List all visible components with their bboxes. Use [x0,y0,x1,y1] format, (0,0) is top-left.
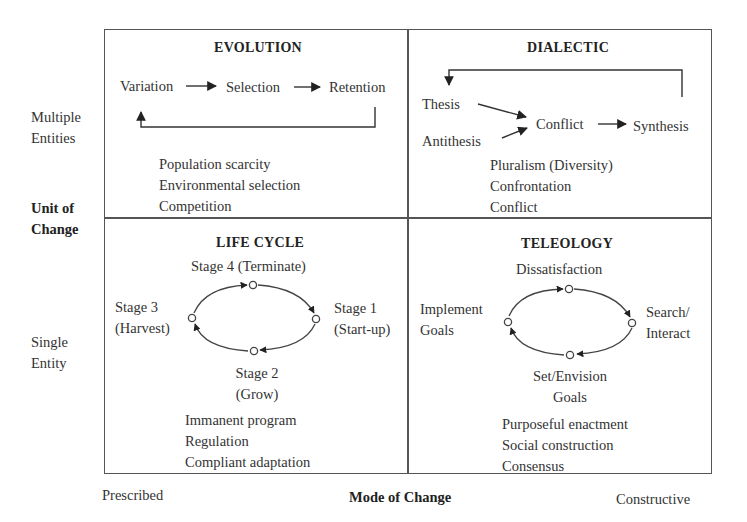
search-interact-node [628,319,635,326]
dialectic-arrows [449,70,682,138]
arrow-retention-feedback [141,107,375,127]
arrow-thesis-to-conflict [478,104,526,117]
diagram-arrows [0,0,747,522]
stage-2-node [250,347,257,354]
evolution-arrows [141,86,375,127]
stage-4-node [249,281,256,288]
life-cycle-cycle [188,281,319,354]
arrow-synthesis-feedback [449,70,682,97]
dissatisfaction-node [565,285,572,292]
teleology-cycle [504,285,635,358]
set-goals-node [566,351,573,358]
arrow-antithesis-to-conflict [502,128,527,138]
stage-3-node [188,314,195,321]
implement-goals-node [504,318,511,325]
stage-1-node [312,315,319,322]
